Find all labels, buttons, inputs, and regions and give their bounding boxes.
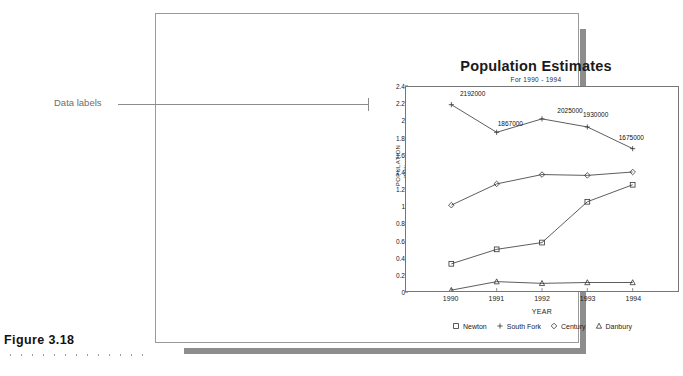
x-tick-label: 1992 [534, 295, 550, 302]
legend-label: South Fork [507, 323, 541, 330]
data-point-triangle-marker [596, 323, 601, 328]
x-tick-label: 1990 [443, 295, 459, 302]
data-label: 1867000 [498, 119, 523, 126]
legend-item-newton[interactable]: Newton [452, 322, 487, 330]
data-point-plus-marker [630, 146, 635, 151]
legend-label: Century [561, 323, 586, 330]
legend-item-danbury[interactable]: Danbury [595, 322, 632, 330]
chart-legend: NewtonSouth ForkCenturyDanbury [405, 322, 679, 330]
diamond-marker-icon [550, 322, 558, 330]
caption-dotted-rule [5, 352, 153, 358]
data-point-plus-marker [494, 130, 499, 135]
plot-area [405, 86, 679, 292]
annotation-leader-line [118, 104, 368, 105]
y-axis-ticks: 00.20.40.60.811.21.41.61.822.22.4 [381, 86, 405, 292]
legend-item-south-fork[interactable]: South Fork [496, 322, 541, 330]
data-label: 2025000 [557, 107, 582, 114]
triangle-marker-icon [595, 322, 603, 330]
plot-svg [406, 87, 678, 291]
data-point-plus-marker [449, 102, 454, 107]
legend-item-century[interactable]: Century [550, 322, 586, 330]
population-estimates-chart: Population Estimates For 1990 - 1994 POP… [381, 58, 683, 343]
data-point-square-marker [454, 324, 459, 329]
data-point-diamond-marker [551, 323, 557, 329]
data-point-diamond-marker [449, 202, 455, 208]
scanned-page: Population Estimates For 1990 - 1994 POP… [155, 13, 579, 343]
series-line-newton [451, 185, 632, 264]
data-label: 1930000 [583, 111, 608, 118]
chart-title: Population Estimates [381, 58, 683, 74]
x-tick-label: 1991 [489, 295, 505, 302]
annotation-label: Data labels [54, 97, 102, 108]
data-label: 1675000 [619, 134, 644, 141]
figure-caption: Figure 3.18 [4, 333, 74, 347]
x-tick-label: 1994 [626, 295, 642, 302]
square-marker-icon [452, 322, 460, 330]
chart-subtitle: For 1990 - 1994 [381, 76, 683, 83]
x-tick-label: 1993 [580, 295, 596, 302]
plus-marker-icon [496, 322, 504, 330]
data-point-plus-marker [585, 124, 590, 129]
annotation-leader-tick [368, 98, 369, 111]
legend-label: Danbury [606, 323, 632, 330]
legend-label: Newton [463, 323, 487, 330]
data-label: 2192000 [460, 89, 485, 96]
x-axis-title: YEAR [405, 308, 679, 315]
data-point-plus-marker [539, 116, 544, 121]
data-point-plus-marker [497, 323, 502, 328]
page-drop-shadow-bottom [184, 348, 586, 354]
